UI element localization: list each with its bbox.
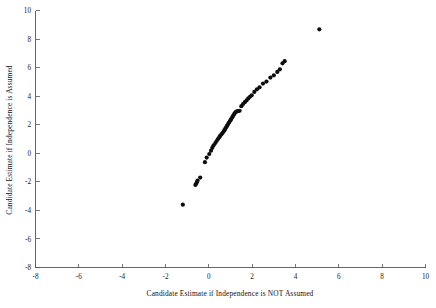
y-tick-label: 2 xyxy=(27,121,31,129)
x-tick-label: 6 xyxy=(337,273,341,281)
data-point xyxy=(264,80,268,84)
x-tick-label: -6 xyxy=(76,273,82,281)
data-point xyxy=(317,27,321,31)
data-point xyxy=(250,93,254,97)
y-axis-ticks: -8-6-4-20246810 xyxy=(24,7,40,272)
data-point xyxy=(257,85,261,89)
data-point xyxy=(181,203,185,207)
x-tick-label: -2 xyxy=(163,273,169,281)
y-axis-title: Candidate Estimate if Independence is As… xyxy=(5,65,14,215)
data-point xyxy=(283,59,287,63)
data-point xyxy=(205,155,209,159)
scatter-plot-figure: -8-6-4-20246810 -8-6-4-20246810 Candidat… xyxy=(0,0,436,308)
y-tick-label: -2 xyxy=(25,178,31,186)
x-tick-label: 4 xyxy=(294,273,298,281)
scatter-points xyxy=(181,27,322,207)
x-axis-ticks: -8-6-4-20246810 xyxy=(33,264,430,282)
x-tick-label: 10 xyxy=(422,273,430,281)
x-tick-label: 0 xyxy=(207,273,211,281)
x-tick-label: -8 xyxy=(33,273,39,281)
data-point xyxy=(268,76,272,80)
y-tick-label: -6 xyxy=(25,236,31,244)
x-tick-label: 2 xyxy=(250,273,254,281)
x-axis-title: Candidate Estimate if Independence is NO… xyxy=(147,289,314,298)
plot-canvas: -8-6-4-20246810 -8-6-4-20246810 Candidat… xyxy=(0,0,436,308)
x-tick-label: 8 xyxy=(380,273,384,281)
data-point xyxy=(203,160,207,164)
data-point xyxy=(238,109,242,113)
y-tick-label: 10 xyxy=(24,7,32,15)
y-tick-label: -8 xyxy=(25,264,31,272)
y-tick-label: 8 xyxy=(27,36,31,44)
y-tick-label: -4 xyxy=(25,207,31,215)
data-point xyxy=(278,67,282,71)
y-tick-label: 4 xyxy=(27,93,31,101)
data-point xyxy=(272,73,276,77)
y-tick-label: 6 xyxy=(27,64,31,72)
data-point xyxy=(198,175,202,179)
y-tick-label: 0 xyxy=(27,150,31,158)
x-tick-label: -4 xyxy=(119,273,125,281)
